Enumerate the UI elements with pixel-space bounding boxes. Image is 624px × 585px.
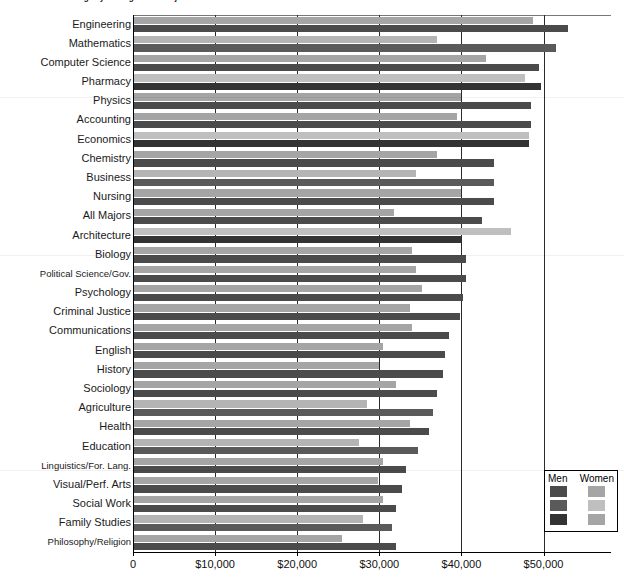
scan-seam [0,470,624,471]
category-label: Engineering [72,19,131,30]
category-label: Communications [49,325,131,336]
bar-men [133,313,460,320]
plot-left-border [133,15,134,552]
bar-men [133,159,494,166]
bar-men [133,294,463,301]
legend-swatch-men [550,514,567,525]
x-axis-tick [215,552,216,556]
chart-category-row: Education [0,437,624,456]
category-label: Psychology [75,287,131,298]
category-label: Social Work [73,498,131,509]
bar-women [133,151,437,158]
bar-women [133,343,383,350]
bar-men [133,140,529,147]
chart-category-row: Sociology [0,379,624,398]
bar-men [133,236,461,243]
category-label: English [95,345,131,356]
category-label: Agriculture [78,402,131,413]
x-axis-tick [379,552,380,556]
legend-swatch-women [588,514,605,525]
bar-men [133,44,556,51]
legend-row [548,500,614,511]
bar-men [133,25,568,32]
category-label: Education [82,441,131,452]
bar-men [133,543,396,550]
legend-row [548,514,614,525]
category-label: Health [99,421,131,432]
bar-women [133,420,410,427]
bar-men [133,370,443,377]
legend-label-women: Women [580,473,614,484]
bar-women [133,304,410,311]
legend-row [548,486,614,497]
x-axis-line [133,552,611,553]
chart-category-row: Political Science/Gov. [0,264,624,283]
bar-women [133,17,533,24]
chart-category-row: Pharmacy [0,73,624,92]
chart-category-row: Engineering [0,15,624,34]
x-axis-tick-label: $50,000 [524,558,564,570]
bar-men [133,447,418,454]
bar-men [133,64,539,71]
bar-women [133,477,378,484]
chart-category-row: Agriculture [0,399,624,418]
chart-category-row: Linguistics/For. Lang. [0,456,624,475]
bar-men [133,505,396,512]
category-label: Family Studies [59,517,131,528]
x-axis-tick-label: $10,000 [195,558,235,570]
category-label: Chemistry [81,153,131,164]
bar-men [133,428,429,435]
category-label: Philosophy/Religion [48,536,131,547]
chart-category-row: Family Studies [0,514,624,533]
bar-women [133,74,525,81]
chart-category-row: English [0,341,624,360]
bar-men [133,332,449,339]
category-label: Nursing [93,191,131,202]
x-axis-tick [461,552,462,556]
bar-women [133,209,394,216]
category-label: Criminal Justice [53,306,131,317]
bar-women [133,285,422,292]
chart-category-row: Business [0,168,624,187]
scan-seam [0,97,624,98]
bar-women [133,228,511,235]
category-label: Political Science/Gov. [40,268,131,279]
bar-men [133,121,531,128]
chart-category-row: Nursing [0,188,624,207]
category-label: History [97,364,131,375]
scan-seam [0,255,624,256]
bar-men [133,485,402,492]
chart-category-row: Architecture [0,226,624,245]
category-label: Pharmacy [81,76,131,87]
legend-header: Men Women [548,473,614,484]
x-axis-tick [297,552,298,556]
x-axis-tick-label: 0 [130,558,136,570]
legend-swatch-men [550,486,567,497]
chart-category-row: History [0,360,624,379]
chart-category-row: Social Work [0,494,624,513]
bar-women [133,381,396,388]
bar-women [133,400,367,407]
legend-swatch-women [588,486,605,497]
bar-men [133,179,494,186]
bar-women [133,535,342,542]
bar-men [133,83,541,90]
category-label: Mathematics [69,38,131,49]
bar-men [133,275,466,282]
category-label: Economics [77,134,131,145]
legend-label-men: Men [548,473,567,484]
x-axis-tick-label: $20,000 [277,558,317,570]
category-label: Computer Science [41,57,132,68]
x-axis-tick [133,552,134,556]
bar-men [133,351,445,358]
chart-container: Median Annual Earnings by Undergraduate … [0,0,624,585]
bar-women [133,55,486,62]
chart-legend: Men Women [544,470,618,532]
bar-women [133,324,412,331]
bar-men [133,255,466,262]
bar-women [133,189,461,196]
chart-category-row: Visual/Perf. Arts [0,475,624,494]
bar-men [133,217,482,224]
chart-category-row: Computer Science [0,53,624,72]
bar-women [133,266,416,273]
